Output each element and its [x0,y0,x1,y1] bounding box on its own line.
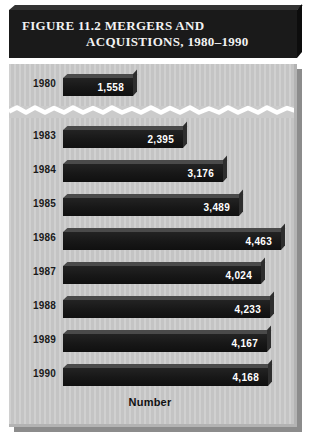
bar-year-label: 1990 [20,368,56,379]
bar-side-face [281,224,285,250]
bar-top-face [63,330,271,334]
bar-side-face [270,292,274,318]
chart-panel: 19801,55819832,39519843,17619853,4891986… [9,64,297,427]
bar-year-label: 1985 [20,198,56,209]
bar: 3,176 [63,160,223,182]
bar: 4,233 [63,296,270,318]
bar-side-face [239,190,243,216]
bar-year-label: 1986 [20,232,56,243]
bar-side-face [223,156,227,182]
bar-side-face [133,70,137,96]
bar-year-label: 1980 [20,78,56,89]
bar-top-face [63,126,187,130]
axis-caption: Number [9,396,291,408]
bar: 4,168 [63,364,268,386]
bar-year-label: 1989 [20,334,56,345]
figure-title-line1: FIGURE 11.2 MERGERS AND [22,18,204,33]
bar-side-face [261,258,265,284]
bar-top-face [63,160,227,164]
bar-value-label: 4,463 [245,236,272,247]
bar: 1,558 [63,74,133,96]
bar: 4,167 [63,330,267,352]
bar-value-label: 1,558 [97,82,124,93]
bar-value-label: 4,024 [225,270,252,281]
bar-top-face [63,364,272,368]
bar-year-label: 1983 [20,130,56,141]
bar: 2,395 [63,126,183,148]
bar-top-face [63,74,137,78]
bar-value-label: 3,176 [187,168,214,179]
bar-top-face [63,228,285,232]
figure-title-line2: ACQUISTIONS, 1980–1990 [22,34,289,50]
bar-value-label: 2,395 [147,134,174,145]
bars-layer: 19801,55819832,39519843,17619853,4891986… [9,64,297,427]
bar-year-label: 1984 [20,164,56,175]
bar-value-label: 4,168 [232,372,259,383]
bar-side-face [183,122,187,148]
bar: 4,463 [63,228,281,250]
figure-container: FIGURE 11.2 MERGERS AND ACQUISTIONS, 198… [0,0,317,444]
bar-value-label: 4,167 [231,338,258,349]
bar-top-face [63,262,265,266]
bar-side-face [268,360,272,386]
bar-value-label: 3,489 [203,202,230,213]
bar-top-face [63,296,274,300]
bar-value-label: 4,233 [234,304,261,315]
bar-year-label: 1987 [20,266,56,277]
bar-year-label: 1988 [20,300,56,311]
figure-title-banner: FIGURE 11.2 MERGERS AND ACQUISTIONS, 198… [9,10,297,58]
bar: 3,489 [63,194,239,216]
bar-side-face [267,326,271,352]
bar-top-face [63,194,243,198]
figure-title: FIGURE 11.2 MERGERS AND ACQUISTIONS, 198… [22,18,289,50]
bar: 4,024 [63,262,261,284]
